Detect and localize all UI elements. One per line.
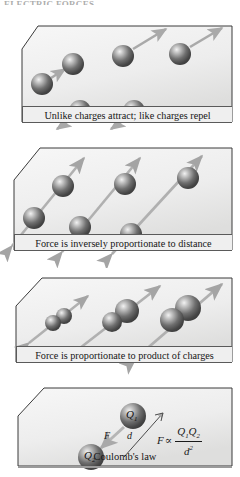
coulombs-law-figure: ELECTRIC FORCES [0,0,240,477]
panel-caption: Force is inversely proportionate to dist… [14,234,232,251]
charge-label-q1: Q1 [126,408,137,422]
distance-label: d [127,430,132,441]
charge-sphere [31,73,53,95]
formula-relation: ∝ [164,434,173,446]
charge-sphere [102,312,122,332]
cutoff-header-text: ELECTRIC FORCES [4,0,124,5]
panel-coulombs-law: Q1 Q2 F d F∝ Q1Q2 d2 Coulomb's law [0,374,240,477]
charge-sphere [45,315,61,331]
panel-caption: Coulomb's law [18,450,232,467]
charge-sphere [177,167,199,189]
panel-caption: Unlike charges attract; like charges rep… [22,106,232,123]
formula-numerator: Q1Q2 [175,426,202,442]
charge-sphere [160,308,184,332]
panel-attract-repel: Unlike charges attract; like charges rep… [0,10,240,138]
charge-sphere [112,45,134,67]
bottom-rule [18,466,232,468]
charge-sphere [114,173,136,195]
charge-sphere [169,43,191,65]
charge-sphere [52,175,74,197]
charge-sphere [23,207,45,229]
panel-product-charges: Force is proportionate to product of cha… [0,266,240,376]
panel-caption: Force is proportionate to product of cha… [16,346,232,363]
formula-lhs: F [157,434,164,446]
charge-sphere [62,53,84,75]
force-label: F [104,430,110,441]
panel-inverse-distance: Force is inversely proportionate to dist… [0,134,240,268]
